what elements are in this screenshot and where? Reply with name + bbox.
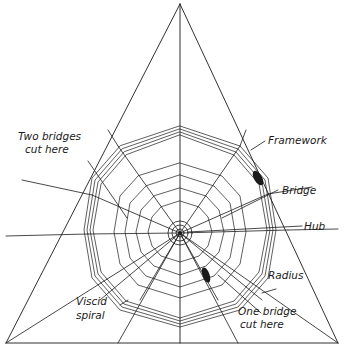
label-viscid-2: spiral <box>76 309 105 321</box>
spider-web-diagram: Two bridges cut here Framework Bridge Hu… <box>0 0 344 355</box>
triangle-framework <box>6 4 338 343</box>
spider-icon <box>200 169 265 284</box>
label-hub: Hub <box>304 220 326 232</box>
label-framework: Framework <box>268 134 328 146</box>
label-one-bridge-2: cut here <box>240 318 284 330</box>
label-viscid-1: Viscid <box>76 295 107 307</box>
label-one-bridge-1: One bridge <box>238 305 296 317</box>
label-radius: Radius <box>268 269 304 281</box>
label-bridge: Bridge <box>282 184 316 196</box>
label-two-bridges-2: cut here <box>25 143 69 155</box>
label-two-bridges-1: Two bridges <box>18 130 82 142</box>
hub <box>168 221 192 245</box>
leader-lines <box>88 141 302 313</box>
